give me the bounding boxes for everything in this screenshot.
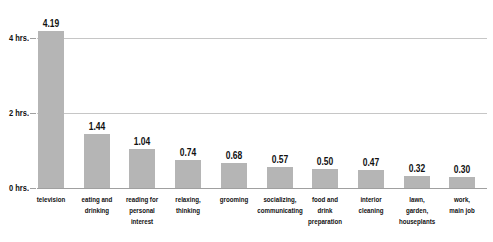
category-label: lawn,garden,houseplants [392,194,441,227]
category-label-line: houseplants [392,216,441,227]
y-axis-tick-label: 0 hrs. [3,183,29,194]
bar-value-label: 4.19 [32,17,69,30]
category-label-line: relaxing, [163,194,212,205]
bar-value-label: 0.57 [261,153,298,166]
category-label-line: communicating [255,205,304,216]
category-label: reading forpersonalinterest [118,194,167,227]
y-axis-tick-label: 4 hrs. [3,33,29,44]
category-label-line: drinking [72,205,121,216]
bar [84,134,110,188]
category-label: socializing,communicating [255,194,304,216]
category-label-line: food and [301,194,350,205]
y-axis-tick-mark [30,188,36,189]
category-label-line: interest [118,216,167,227]
category-label-line: personal [118,205,167,216]
category-label-line: lawn, [392,194,441,205]
bar-value-label: 0.50 [306,155,343,168]
bar [267,167,293,188]
category-label: interiorcleaning [346,194,395,216]
category-label: eating anddrinking [72,194,121,216]
category-label-line: eating and [72,194,121,205]
bar-value-label: 0.47 [352,156,389,169]
bar-value-label: 0.30 [444,163,481,176]
category-label-line: preparation [301,216,350,227]
category-label-line: grooming [209,194,258,205]
bar [358,170,384,188]
category-label-line: main job [438,205,487,216]
bar-chart: 0 hrs.2 hrs.4 hrs.4.19television1.44eati… [0,0,493,242]
gridline [37,113,487,114]
bar [449,177,475,188]
bar [38,31,64,188]
y-axis-tick-label: 2 hrs. [3,108,29,119]
category-label: relaxing,thinking [163,194,212,216]
y-axis-tick-mark [30,38,36,39]
category-label-line: garden, [392,205,441,216]
category-label: television [26,194,75,205]
plot-area: 0 hrs.2 hrs.4 hrs.4.19television1.44eati… [0,0,493,242]
category-label-line: reading for [118,194,167,205]
category-label-line: cleaning [346,205,395,216]
category-label-line: socializing, [255,194,304,205]
category-label: work,main job [438,194,487,216]
gridline [37,38,487,39]
y-axis-tick-mark [30,113,36,114]
category-label-line: television [26,194,75,205]
category-label-line: thinking [163,205,212,216]
bar-value-label: 1.44 [78,120,115,133]
bar-value-label: 0.74 [169,146,206,159]
x-axis-line [37,188,487,189]
bar [129,149,155,188]
category-label-line: drink [301,205,350,216]
category-label: grooming [209,194,258,205]
bar [175,160,201,188]
bar-value-label: 0.68 [215,149,252,162]
bar [312,169,338,188]
bar-value-label: 0.32 [398,162,435,175]
bar [404,176,430,188]
category-label-line: interior [346,194,395,205]
category-label: food anddrinkpreparation [301,194,350,227]
category-label-line: work, [438,194,487,205]
bar [221,163,247,189]
bar-value-label: 1.04 [124,135,161,148]
